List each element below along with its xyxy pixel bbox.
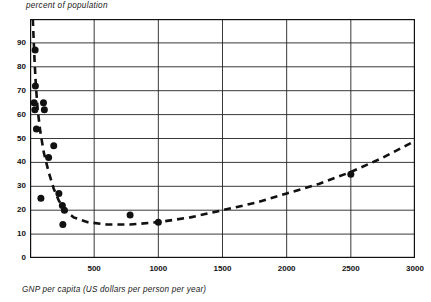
trend-line-dashed [33,19,415,225]
chart-figure: percent of population 010203040506070809… [0,0,431,302]
x-tick-label: 3000 [395,265,431,273]
y-axis-title: percent of population [26,1,108,10]
plot-area [30,19,415,258]
plot-canvas [30,19,415,258]
y-tick-label: 40 [6,158,26,166]
x-tick-label: 2000 [267,265,307,273]
y-tick-label: 30 [6,182,26,190]
scatter-points [31,47,355,228]
y-tick-label: 90 [6,39,26,47]
y-tick-label: 0 [6,254,26,262]
x-tick-label: 2500 [331,265,371,273]
y-tick-label: 10 [6,230,26,238]
x-tick-label: 1000 [138,265,178,273]
y-tick-label: 60 [6,111,26,119]
y-tick-label: 80 [6,63,26,71]
x-axis-tick-labels: 50010001500200025003000 [30,262,415,276]
x-axis-title: GNP per capita (US dollars per person pe… [22,285,206,294]
x-tick-label: 1500 [203,265,243,273]
x-tick-label: 500 [74,265,114,273]
y-axis-tick-labels: 0102030405060708090 [4,19,26,258]
y-tick-label: 70 [6,87,26,95]
y-tick-label: 20 [6,206,26,214]
y-tick-label: 50 [6,135,26,143]
